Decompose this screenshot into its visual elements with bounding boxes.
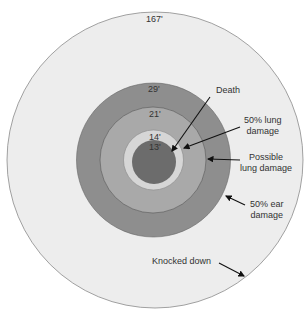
label-167ft: 167' [146,14,163,25]
callout-possible-line2: lung damage [240,163,292,174]
label-29ft: 29' [148,84,160,95]
callout-50-ear: 50% ear damage [250,199,284,221]
label-21ft: 21' [149,109,161,120]
callout-death: Death [216,85,240,96]
callout-50-lung-line2: damage [244,126,282,137]
label-13ft: 13' [149,142,161,153]
callout-possible-lung: Possible lung damage [240,152,292,174]
callout-50-ear-line2: damage [250,210,284,221]
callout-50-ear-line1: 50% ear [250,199,284,210]
callout-50-lung: 50% lung damage [244,115,282,137]
callout-knocked-down: Knocked down [152,256,211,267]
callout-possible-line1: Possible [240,152,292,163]
callout-50-lung-line1: 50% lung [244,115,282,126]
